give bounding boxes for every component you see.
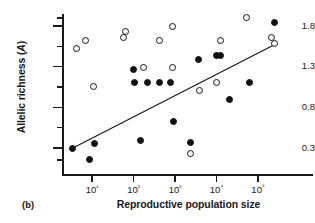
data-point-filled xyxy=(271,19,278,26)
data-point-filled xyxy=(170,118,177,125)
data-point-open xyxy=(90,83,97,90)
data-point-open xyxy=(271,40,278,47)
data-point-filled xyxy=(156,79,163,86)
x-tick-major xyxy=(133,174,134,182)
x-tick-label: 10² xyxy=(127,183,140,195)
data-point-open xyxy=(140,64,147,71)
data-point-open xyxy=(187,150,194,157)
regression-line xyxy=(72,44,275,149)
y-tick-major xyxy=(53,147,62,148)
x-tick-label: 10³ xyxy=(169,183,182,195)
x-tick-major xyxy=(174,174,175,182)
scatter-plot-figure: Allelic richness (A) 0.30.81.31.810¹10²1… xyxy=(0,0,315,223)
data-point-filled xyxy=(137,137,144,144)
y-tick-label: 1.3 xyxy=(287,60,315,71)
data-point-filled xyxy=(86,156,93,163)
x-tick-label: 10⁴ xyxy=(210,183,223,195)
data-point-open xyxy=(169,64,176,71)
x-tick-major xyxy=(216,174,217,182)
y-axis-label-text: Allelic richness (A) xyxy=(15,41,27,134)
data-point-open xyxy=(213,79,220,86)
y-tick-minor xyxy=(57,159,62,160)
data-point-open xyxy=(243,14,250,21)
data-point-filled xyxy=(167,79,174,86)
y-tick-label: 1.8 xyxy=(287,20,315,31)
x-axis-label: Reproductive population size xyxy=(62,198,315,210)
x-tick-label: 10⁵ xyxy=(251,183,264,195)
y-tick-minor xyxy=(57,127,62,128)
data-point-filled xyxy=(187,139,194,146)
y-tick-minor xyxy=(57,46,62,47)
data-point-open xyxy=(196,87,203,94)
x-axis-line xyxy=(62,174,313,176)
data-point-open xyxy=(156,37,163,44)
y-tick-major xyxy=(53,66,62,67)
x-tick-label: 10¹ xyxy=(86,183,99,195)
data-point-filled xyxy=(69,145,76,152)
data-point-filled xyxy=(91,140,98,147)
data-point-open xyxy=(169,23,176,30)
y-tick-major xyxy=(53,25,62,26)
data-point-filled xyxy=(226,96,233,103)
y-tick-label: 0.3 xyxy=(287,142,315,153)
y-axis-label: Allelic richness (A) xyxy=(15,12,27,162)
data-point-filled xyxy=(130,66,137,73)
data-point-open xyxy=(73,45,80,52)
data-point-open xyxy=(122,28,129,35)
y-tick-minor xyxy=(57,86,62,87)
panel-label: (b) xyxy=(22,199,34,210)
data-point-filled xyxy=(217,52,224,59)
data-point-filled xyxy=(131,79,138,86)
data-point-open xyxy=(217,37,224,44)
y-tick-minor xyxy=(57,17,62,18)
data-point-filled xyxy=(195,56,202,63)
x-tick-major xyxy=(257,174,258,182)
data-point-filled xyxy=(246,79,253,86)
y-tick-label: 0.8 xyxy=(287,101,315,112)
data-point-filled xyxy=(144,79,151,86)
y-tick-major xyxy=(53,107,62,108)
x-tick-major xyxy=(91,174,92,182)
y-axis-line xyxy=(62,14,64,175)
data-point-open xyxy=(82,37,89,44)
